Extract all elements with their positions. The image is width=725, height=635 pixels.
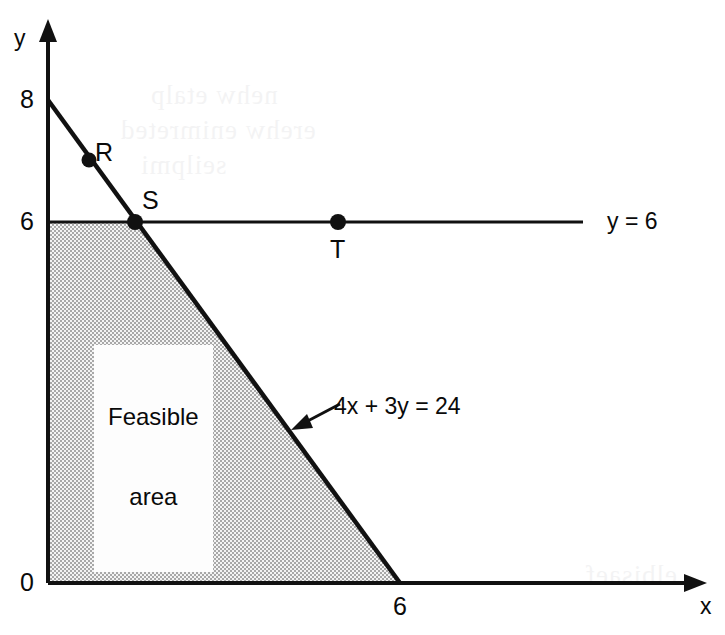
y-tick-label-6: 6 [20,207,34,235]
horizontal-line-annotation: y = 6 [607,209,658,235]
feasible-area-label-line1: Feasible [108,404,199,431]
point-label-R: R [95,138,113,166]
x-axis-label: x [700,594,712,620]
feasible-area-label: Feasible area [94,345,213,572]
x-tick-label-6: 6 [393,592,407,620]
constraint-leader-arrow [291,404,340,430]
constraint-line-annotation: 4x + 3y = 24 [334,394,461,420]
point-label-T: T [330,235,345,263]
point-label-S: S [142,186,159,214]
point-S-marker [127,214,143,230]
y-tick-label-8: 8 [20,85,34,113]
point-T-marker [330,214,346,230]
y-axis-label: y [14,26,26,52]
feasible-area-label-line2: area [108,484,199,511]
origin-label-0: 0 [20,568,34,596]
figure-page: nehw etalp erehw enimreted seilpmi elbis… [0,0,725,635]
